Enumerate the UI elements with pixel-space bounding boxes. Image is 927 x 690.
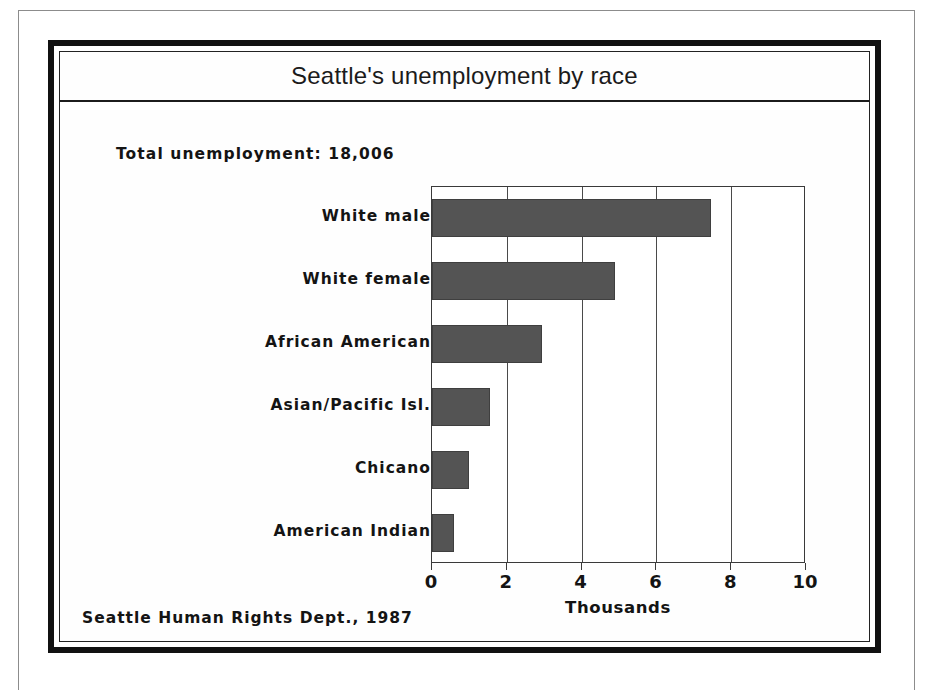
bar-row [432, 388, 490, 426]
bar [432, 388, 490, 426]
bar [432, 514, 454, 552]
x-tick-label: 10 [792, 571, 817, 592]
x-tick-label: 2 [500, 571, 513, 592]
category-label: White female [101, 270, 431, 288]
x-tick-label: 6 [649, 571, 662, 592]
source-caption: Seattle Human Rights Dept., 1987 [82, 609, 413, 627]
bar [432, 262, 615, 300]
bar-row [432, 325, 542, 363]
x-axis-tick-labels: 0246810 [431, 571, 805, 595]
tick-mark-0 [431, 563, 432, 570]
tick-mark-8 [730, 563, 731, 570]
category-label: American Indian [101, 522, 431, 540]
category-axis-labels: White maleWhite femaleAfrican AmericanAs… [91, 186, 431, 563]
x-tick-label: 8 [724, 571, 737, 592]
bar-row [432, 451, 469, 489]
total-unemployment-annotation: Total unemployment: 18,006 [116, 145, 395, 163]
category-label: African American [101, 333, 431, 351]
bar-row [432, 262, 615, 300]
bars-layer [432, 187, 804, 562]
x-tick-label: 0 [425, 571, 438, 592]
category-label: White male [101, 207, 431, 225]
x-tick-label: 4 [574, 571, 587, 592]
page-border-left [18, 10, 19, 690]
x-axis-tick-marks [431, 563, 805, 571]
category-label: Asian/Pacific Isl. [101, 396, 431, 414]
figure-inner-border: Seattle's unemployment by race Total une… [59, 51, 870, 642]
tick-mark-10 [805, 563, 806, 570]
x-axis-title: Thousands [431, 598, 805, 617]
page-border-right [914, 10, 915, 690]
bar [432, 451, 469, 489]
title-band: Seattle's unemployment by race [60, 52, 869, 102]
bar-row [432, 514, 454, 552]
bar-row [432, 199, 711, 237]
tick-mark-6 [655, 563, 656, 570]
tick-mark-2 [506, 563, 507, 570]
category-label: Chicano [101, 459, 431, 477]
plot-area [431, 186, 805, 563]
bar [432, 325, 542, 363]
chart-title: Seattle's unemployment by race [291, 62, 638, 90]
tick-mark-4 [581, 563, 582, 570]
bar [432, 199, 711, 237]
figure-frame: Seattle's unemployment by race Total une… [48, 40, 881, 653]
page-border-top [18, 10, 915, 11]
